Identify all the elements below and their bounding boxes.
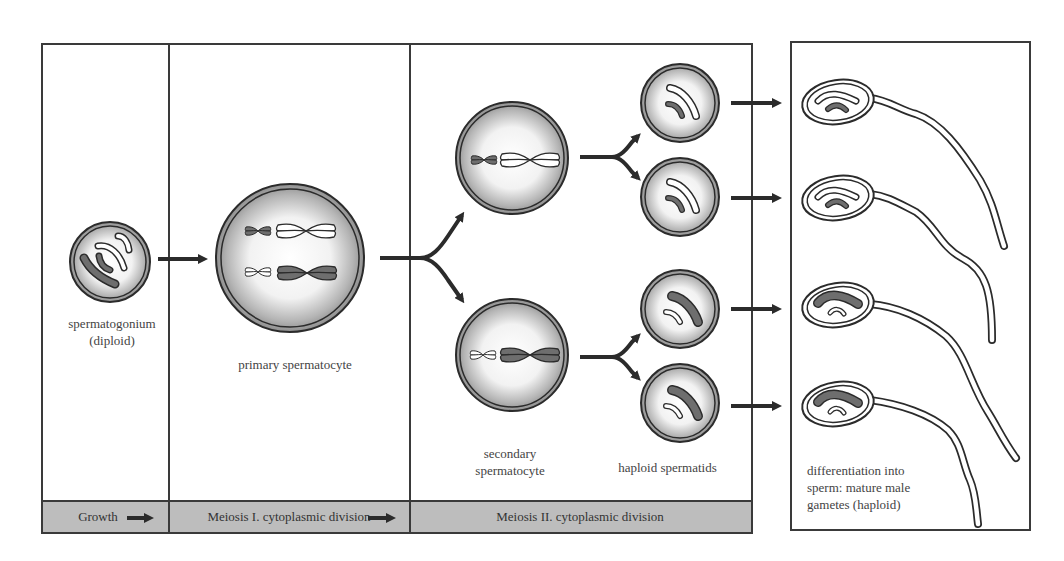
label-haploid-spermatids: haploid spermatids xyxy=(600,459,735,476)
label-primary-spermatocyte: primary spermatocyte xyxy=(210,356,380,373)
label-secondary-spermatocyte: secondary spermatocyte xyxy=(455,445,565,479)
label-sperm-differentiation: differentiation into sperm: mature male … xyxy=(807,462,967,513)
spermatid-3 xyxy=(641,270,719,348)
secondary-spermatocyte-top xyxy=(456,102,568,214)
spermatid-1 xyxy=(641,64,719,142)
label-sperm-line2: sperm: mature male xyxy=(807,479,967,496)
sperm-cells xyxy=(799,75,1016,524)
label-sperm-line3: gametes (haploid) xyxy=(807,496,967,513)
arrow-meiosis-2-split-top xyxy=(580,136,638,178)
sperm-3 xyxy=(799,278,1016,458)
secondary-spermatocyte-bottom xyxy=(456,299,568,411)
arrow-meiosis-2-split-bottom xyxy=(580,336,638,378)
label-secondary-line1: secondary xyxy=(455,445,565,462)
label-spermatogonium-line1: spermatogonium xyxy=(52,315,172,332)
spermatogonium-cell xyxy=(70,222,150,302)
arrow-meiosis-1-split xyxy=(380,215,462,300)
label-sperm-line1: differentiation into xyxy=(807,462,967,479)
spermatid-4 xyxy=(641,364,719,442)
label-secondary-line2: spermatocyte xyxy=(455,462,565,479)
label-spermatogonium-line2: (diploid) xyxy=(52,332,172,349)
arrows-differentiation xyxy=(731,103,778,406)
label-spermatogonium: spermatogonium (diploid) xyxy=(52,315,172,349)
primary-spermatocyte-cell xyxy=(216,184,364,332)
spermatid-2 xyxy=(641,158,719,236)
